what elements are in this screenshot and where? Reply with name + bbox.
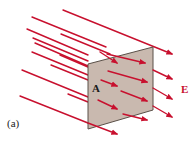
field-label-e: E [181,83,188,95]
field-arrow [63,10,172,54]
field-arrow [153,88,172,99]
field-line [61,34,110,54]
diagram-canvas [0,0,195,147]
field-line [20,96,88,123]
field-arrow [153,70,172,79]
figure-caption: (a) [7,117,19,129]
field-arrow [153,106,172,117]
field-line [22,70,88,97]
surface-label-a: A [92,82,100,94]
field-line [35,43,88,66]
